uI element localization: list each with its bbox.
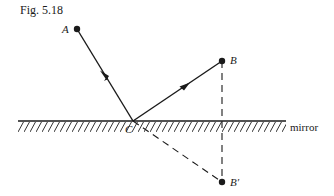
mirror-hatching: [18, 122, 286, 132]
label-c: C: [125, 123, 133, 135]
mirror-reflection-diagram: A B B′ C mirror: [0, 0, 334, 196]
reflected-ray: [133, 61, 222, 121]
label-b-prime: B′: [230, 176, 240, 188]
label-mirror: mirror: [290, 121, 318, 133]
point-b-dot: [219, 58, 225, 64]
label-a: A: [61, 23, 69, 35]
point-a-dot: [74, 26, 80, 32]
label-b: B: [230, 54, 237, 66]
point-b-prime-dot: [219, 179, 225, 185]
